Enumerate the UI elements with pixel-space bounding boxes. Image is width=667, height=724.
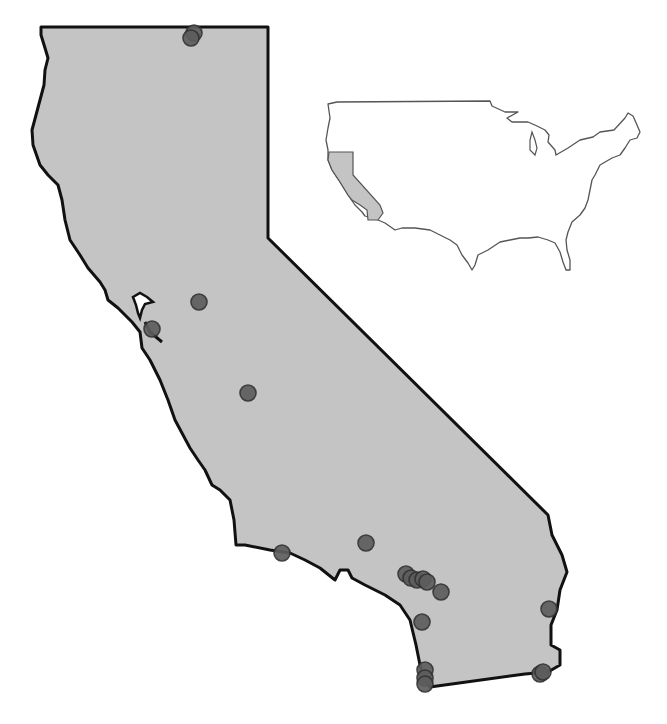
us-inset-map xyxy=(326,101,640,270)
map-point-marker[interactable] xyxy=(183,30,199,46)
map-point-marker[interactable] xyxy=(535,664,551,680)
map-point-marker[interactable] xyxy=(414,614,430,630)
map-point-marker[interactable] xyxy=(419,574,435,590)
map-point-marker[interactable] xyxy=(541,601,557,617)
map-point-marker[interactable] xyxy=(144,321,160,337)
california-map xyxy=(0,0,667,724)
map-point-marker[interactable] xyxy=(358,535,374,551)
map-point-marker[interactable] xyxy=(274,545,290,561)
us-outline xyxy=(326,101,640,270)
map-point-marker[interactable] xyxy=(191,294,207,310)
map-point-marker[interactable] xyxy=(417,676,433,692)
map-point-marker[interactable] xyxy=(240,385,256,401)
map-canvas xyxy=(0,0,667,724)
map-point-marker[interactable] xyxy=(433,584,449,600)
